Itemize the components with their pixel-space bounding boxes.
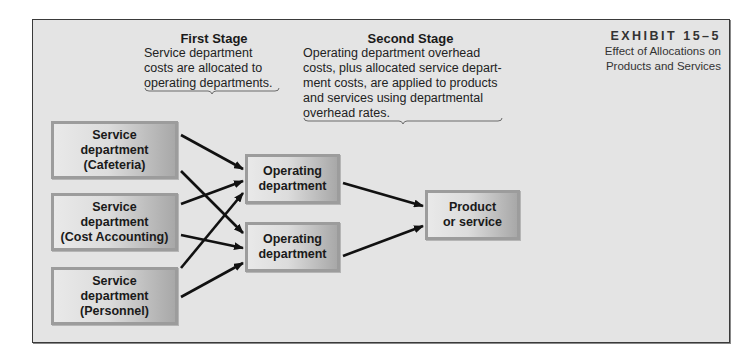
exhibit-header: EXHIBIT 15–5 Effect of Allocations on Pr…	[605, 28, 721, 74]
first-stage-brace	[144, 88, 280, 94]
first-stage-note: First Stage Service department costs are…	[144, 31, 284, 91]
box-line: department	[80, 143, 148, 158]
first-stage-title: First Stage	[144, 31, 284, 46]
box-line: (Personnel)	[80, 304, 149, 319]
box-line: Product	[443, 200, 502, 215]
service-department-personnel: Service department (Personnel)	[51, 267, 178, 325]
second-stage-note: Second Stage Operating department overhe…	[303, 31, 518, 121]
box-line: department	[258, 179, 326, 194]
exhibit-caption: Products and Services	[605, 59, 721, 74]
second-stage-title: Second Stage	[303, 31, 518, 46]
box-line: (Cafeteria)	[80, 158, 148, 173]
box-line: Service	[61, 200, 169, 215]
box-line: Service	[80, 128, 148, 143]
box-line: Service	[80, 274, 149, 289]
operating-department-1: Operating department	[245, 154, 340, 204]
service-department-cafeteria: Service department (Cafeteria)	[51, 121, 178, 179]
second-stage-line: and services using departmental	[303, 91, 518, 106]
box-line: Operating	[258, 232, 326, 247]
second-stage-line: Operating department overhead	[303, 46, 518, 61]
box-line: department	[61, 215, 169, 230]
second-stage-line: costs, plus allocated service depart-	[303, 61, 518, 76]
box-line: or service	[443, 215, 502, 230]
box-line: (Cost Accounting)	[61, 230, 169, 245]
product-or-service: Product or service	[425, 190, 520, 240]
exhibit-number: EXHIBIT 15–5	[605, 28, 721, 44]
service-department-cost-accounting: Service department (Cost Accounting)	[51, 193, 178, 251]
first-stage-line: Service department	[144, 46, 284, 61]
operating-department-2: Operating department	[245, 222, 340, 272]
exhibit-caption: Effect of Allocations on	[605, 44, 721, 59]
box-line: Operating	[258, 164, 326, 179]
box-line: department	[80, 289, 149, 304]
second-stage-brace	[303, 118, 503, 124]
box-line: department	[258, 247, 326, 262]
second-stage-line: ment costs, are applied to products	[303, 76, 518, 91]
first-stage-line: costs are allocated to	[144, 61, 284, 76]
